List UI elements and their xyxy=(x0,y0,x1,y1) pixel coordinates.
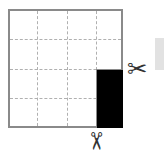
gray-tab xyxy=(155,38,164,70)
scissors-icon-bottom: ✂ xyxy=(84,131,108,151)
grid-line-h1 xyxy=(10,39,121,40)
shaded-rectangle xyxy=(96,69,123,128)
scissors-icon: ✂ xyxy=(127,57,147,81)
